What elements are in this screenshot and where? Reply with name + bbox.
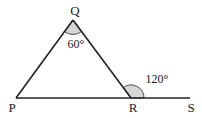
side-qr [73, 20, 131, 98]
side-pq [16, 20, 73, 98]
angle-q-label: 60° [68, 37, 85, 51]
triangle-diagram: Q P R S 60° 120° [0, 0, 202, 118]
label-p: P [8, 100, 15, 115]
label-r: R [129, 100, 138, 115]
label-s: S [187, 100, 194, 115]
label-q: Q [70, 3, 80, 18]
angle-r-label: 120° [146, 72, 169, 86]
